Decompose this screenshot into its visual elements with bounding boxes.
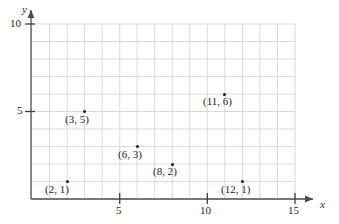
- coordinate-plane-figure: y x 10 5 5 10 15 (2, 1) (3, 5) (6, 3) (8…: [0, 0, 339, 224]
- x-axis-arrowhead: [305, 196, 313, 203]
- data-point-label: (8, 2): [153, 166, 177, 177]
- y-axis-ticks: [25, 24, 35, 112]
- data-point-label: (12, 1): [221, 184, 250, 195]
- data-point-label: (3, 5): [65, 114, 89, 125]
- grid-horizontal-lines: [32, 24, 295, 182]
- y-tick-label-10: 10: [10, 18, 21, 29]
- x-axis-label: x: [320, 199, 325, 210]
- y-axis-label: y: [22, 4, 27, 15]
- data-point-label: (2, 1): [45, 184, 69, 195]
- y-axis-arrowhead: [28, 10, 35, 18]
- x-tick-label-10: 10: [200, 205, 211, 216]
- x-tick-label-15: 15: [288, 205, 299, 216]
- x-tick-label-5: 5: [116, 205, 122, 216]
- data-point-label: (6, 3): [118, 149, 142, 160]
- y-tick-label-5: 5: [17, 105, 23, 116]
- data-point-label: (11, 6): [203, 96, 232, 107]
